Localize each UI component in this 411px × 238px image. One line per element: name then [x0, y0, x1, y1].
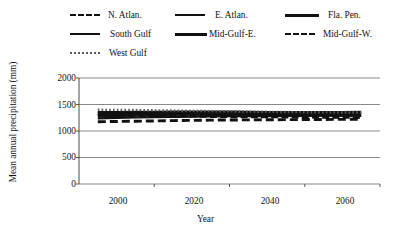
chart-figure: N. Atlan. E. Atlan. Fla. Pen. South Gulf…	[0, 0, 411, 238]
chart-plot-area	[0, 0, 411, 238]
series-line-mid-gulf-e	[98, 114, 361, 116]
series-line-mid-gulf-w	[98, 119, 361, 121]
data-series-group	[98, 110, 361, 122]
axis-ticks	[76, 78, 380, 187]
gridlines	[79, 78, 380, 184]
